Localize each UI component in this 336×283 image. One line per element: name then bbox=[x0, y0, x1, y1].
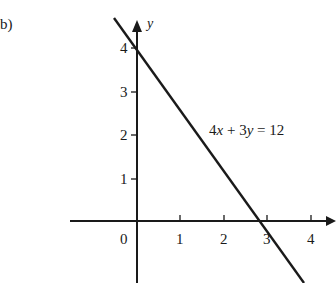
line-graph: b) y 0 1 2 3 4 1 2 3 4 4x + 3y = 12 bbox=[0, 0, 336, 283]
x-tick-label-0: 0 bbox=[120, 231, 128, 247]
equation-label: 4x + 3y = 12 bbox=[209, 122, 284, 138]
y-axis-arrow-icon bbox=[132, 20, 142, 32]
figure-label: b) bbox=[0, 16, 13, 33]
x-axis-arrow-icon bbox=[326, 216, 336, 226]
y-tick-label-3: 3 bbox=[120, 84, 128, 100]
y-tick-label-1: 1 bbox=[120, 171, 128, 187]
series-line bbox=[114, 18, 304, 283]
y-tick-label-4: 4 bbox=[120, 40, 128, 56]
x-tick-label-1: 1 bbox=[176, 231, 184, 247]
y-axis-label: y bbox=[145, 16, 154, 31]
x-tick-label-4: 4 bbox=[307, 231, 315, 247]
x-tick-label-2: 2 bbox=[220, 231, 228, 247]
y-tick-label-2: 2 bbox=[120, 127, 128, 143]
